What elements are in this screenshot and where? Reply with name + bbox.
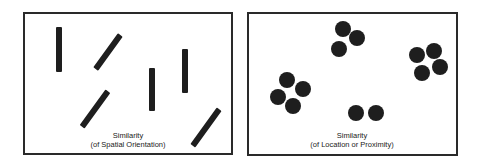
orientation-bar xyxy=(182,49,188,93)
caption-spatial-orientation: Similarity (of Spatial Orientation) xyxy=(48,131,208,149)
proximity-dot-left xyxy=(270,89,286,105)
caption-proximity: Similarity (of Location or Proximity) xyxy=(272,131,432,149)
caption-title: Similarity xyxy=(272,131,432,140)
proximity-dot-bottom xyxy=(368,105,384,121)
proximity-dot-left xyxy=(285,98,301,114)
proximity-dot-right xyxy=(414,65,430,81)
proximity-dot-top xyxy=(331,41,347,57)
proximity-dot-left xyxy=(279,72,295,88)
proximity-dot-left xyxy=(295,81,311,97)
proximity-dot-right xyxy=(432,59,448,75)
orientation-bar xyxy=(149,68,155,111)
orientation-bar xyxy=(56,27,62,72)
proximity-dot-top xyxy=(349,30,365,46)
proximity-dot-right xyxy=(409,47,425,63)
caption-subtitle: (of Location or Proximity) xyxy=(272,140,432,149)
proximity-dot-bottom xyxy=(348,105,364,121)
caption-subtitle: (of Spatial Orientation) xyxy=(48,140,208,149)
proximity-dot-right xyxy=(426,43,442,59)
caption-title: Similarity xyxy=(48,131,208,140)
